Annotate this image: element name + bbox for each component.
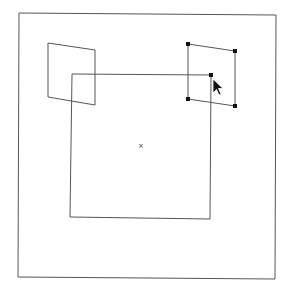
arrow-cursor-icon: [213, 79, 223, 95]
center-mark-icon: ×: [138, 142, 144, 150]
resize-handle[interactable]: [186, 97, 190, 101]
resize-handle[interactable]: [233, 49, 237, 53]
canvas-frame: [18, 13, 276, 279]
drawing-canvas[interactable]: ×: [0, 0, 288, 298]
resize-handle[interactable]: [209, 73, 213, 77]
resize-handle[interactable]: [233, 104, 237, 108]
resize-handle[interactable]: [186, 42, 190, 46]
